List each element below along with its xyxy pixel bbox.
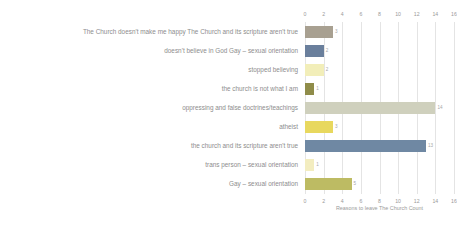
- bar-value-label: 2: [326, 45, 329, 57]
- bar-row: 1: [305, 79, 454, 98]
- bar-value-label: 3: [335, 26, 338, 38]
- category-label: the church and its scripture aren't true: [0, 142, 302, 150]
- bar-row: 2: [305, 41, 454, 60]
- category-label: stopped believing: [0, 66, 302, 74]
- bar-value-label: 13: [428, 140, 433, 152]
- bar-value-label: 5: [354, 178, 357, 190]
- bar-series: 32211431315: [305, 22, 454, 194]
- category-row: the church and its scripture aren't true: [0, 137, 302, 156]
- gridline: [454, 22, 455, 194]
- bar[interactable]: [305, 121, 333, 133]
- axis-tick-label: 12: [414, 9, 420, 20]
- axis-tick-label: 14: [432, 9, 438, 20]
- bar-value-label: 1: [316, 83, 319, 95]
- category-label: the church is not what I am: [0, 85, 302, 93]
- x-axis-title: Reasons to leave The Church Count: [305, 205, 454, 211]
- bar-value-label: 3: [335, 121, 338, 133]
- category-row: trans person – sexual orientation: [0, 156, 302, 175]
- bar[interactable]: [305, 64, 324, 76]
- bar-value-label: 1: [316, 159, 319, 171]
- category-row: Gay – sexual orientation: [0, 175, 302, 194]
- bar-row: 14: [305, 98, 454, 117]
- bar[interactable]: [305, 26, 333, 38]
- bar[interactable]: [305, 83, 314, 95]
- bar-row: 1: [305, 156, 454, 175]
- bar-row: 13: [305, 137, 454, 156]
- category-label: trans person – sexual orientation: [0, 161, 302, 169]
- category-label: The Church doesn't make me happy The Chu…: [0, 28, 302, 36]
- category-row: oppressing and false doctrines/teachings: [0, 98, 302, 117]
- top-axis: 0246810121416: [305, 9, 454, 20]
- axis-tick-label: 8: [378, 9, 381, 20]
- bar[interactable]: [305, 178, 352, 190]
- bar[interactable]: [305, 140, 426, 152]
- axis-tick-label: 10: [395, 9, 401, 20]
- bar-value-label: 14: [437, 102, 442, 114]
- axis-tick-label: 16: [451, 9, 457, 20]
- plot-area: 32211431315: [305, 22, 454, 194]
- category-label-column: The Church doesn't make me happy The Chu…: [0, 22, 302, 194]
- axis-tick-label: 4: [341, 9, 344, 20]
- bar[interactable]: [305, 102, 435, 114]
- bar[interactable]: [305, 159, 314, 171]
- category-row: doesn't believe in God Gay – sexual orie…: [0, 41, 302, 60]
- axis-tick-label: 0: [304, 9, 307, 20]
- category-row: stopped believing: [0, 60, 302, 79]
- category-row: the church is not what I am: [0, 79, 302, 98]
- bar[interactable]: [305, 45, 324, 57]
- category-label: Gay – sexual orientation: [0, 180, 302, 188]
- bar-row: 3: [305, 117, 454, 136]
- axis-tick-label: 6: [359, 9, 362, 20]
- category-row: The Church doesn't make me happy The Chu…: [0, 22, 302, 41]
- axis-tick-label: 2: [322, 9, 325, 20]
- category-label: atheist: [0, 123, 302, 131]
- category-row: atheist: [0, 117, 302, 136]
- category-label: oppressing and false doctrines/teachings: [0, 104, 302, 112]
- bar-row: 5: [305, 175, 454, 194]
- bar-row: 2: [305, 60, 454, 79]
- category-label: doesn't believe in God Gay – sexual orie…: [0, 47, 302, 55]
- bar-value-label: 2: [326, 64, 329, 76]
- bar-row: 3: [305, 22, 454, 41]
